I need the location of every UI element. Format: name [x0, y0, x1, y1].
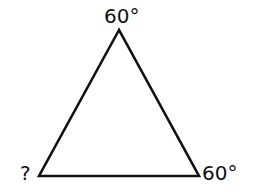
angle-label-bottom-left: ? [20, 163, 31, 183]
angle-label-bottom-right: 60° [202, 163, 237, 183]
triangle [39, 30, 199, 176]
angle-label-top: 60° [104, 6, 139, 26]
